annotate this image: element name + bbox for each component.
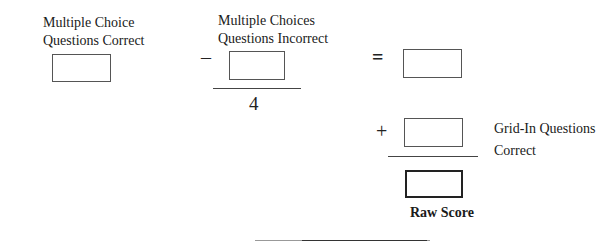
fraction-bar bbox=[213, 88, 301, 89]
mc-incorrect-label-line1: Multiple Choices bbox=[218, 12, 328, 30]
mc-incorrect-input-box[interactable] bbox=[229, 51, 285, 80]
grid-in-label-line2: Correct bbox=[494, 142, 596, 160]
grid-in-label: Grid-In Questions Correct bbox=[494, 120, 596, 160]
minus-operator: – bbox=[201, 46, 211, 69]
mc-correct-label-line1: Multiple Choice bbox=[43, 14, 144, 32]
raw-score-label: Raw Score bbox=[410, 204, 474, 222]
grid-in-label-line1: Grid-In Questions bbox=[494, 120, 596, 138]
mc-correct-label-line2: Questions Correct bbox=[43, 32, 144, 50]
sum-bar bbox=[388, 156, 478, 157]
mc-correct-label: Multiple Choice Questions Correct bbox=[43, 14, 144, 50]
mc-correct-input-box[interactable] bbox=[52, 54, 111, 82]
divisor-four: 4 bbox=[249, 93, 259, 115]
plus-operator: + bbox=[376, 120, 387, 143]
mc-incorrect-label: Multiple Choices Questions Incorrect bbox=[218, 12, 328, 48]
subtotal-input-box[interactable] bbox=[403, 49, 462, 78]
mc-incorrect-label-line2: Questions Incorrect bbox=[218, 30, 328, 48]
raw-score-input-box[interactable] bbox=[405, 170, 463, 198]
equals-operator: = bbox=[372, 46, 383, 69]
grid-in-input-box[interactable] bbox=[404, 118, 463, 147]
